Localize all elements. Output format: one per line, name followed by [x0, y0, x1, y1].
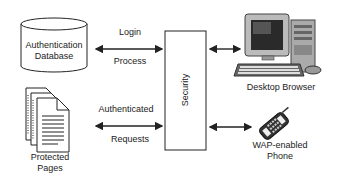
protected-pages-label: Protected Pages — [22, 152, 78, 174]
documents-icon — [26, 88, 69, 152]
protected-pages-line1: Protected — [22, 152, 78, 163]
auth-db-line2: Database — [21, 51, 87, 62]
desktop-computer-icon — [234, 14, 321, 76]
security-label: Security — [180, 50, 191, 130]
desktop-browser-label: Desktop Browser — [236, 82, 326, 93]
authenticated-label: Authenticated — [90, 104, 162, 115]
phone-line2: Phone — [245, 151, 315, 162]
phone-line1: WAP-enabled — [245, 140, 315, 151]
auth-db-line1: Authentication — [21, 40, 87, 51]
process-label: Process — [100, 56, 160, 67]
auth-db-label: Authentication Database — [21, 40, 87, 62]
protected-pages-line2: Pages — [22, 163, 78, 174]
phone-label: WAP-enabled Phone — [245, 140, 315, 162]
phone-icon — [258, 106, 296, 141]
requests-label: Requests — [100, 134, 160, 145]
login-label: Login — [100, 27, 160, 38]
